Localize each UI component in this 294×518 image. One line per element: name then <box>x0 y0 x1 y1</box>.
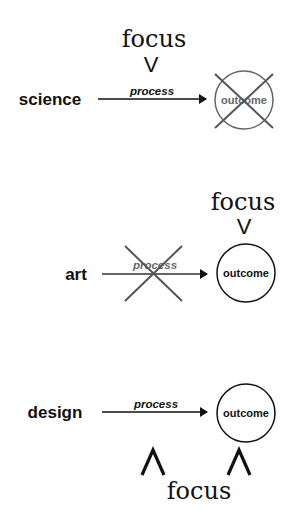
discipline-label-design: design <box>28 403 83 422</box>
row-science: focus V science process outcome <box>19 25 273 129</box>
process-label-art: process <box>132 259 177 271</box>
focus-marker-down-icon: V <box>144 52 159 77</box>
outcome-label-design: outcome <box>223 407 269 419</box>
discipline-label-science: science <box>19 90 81 109</box>
focus-marker-up-icon <box>228 450 250 475</box>
focus-marker-down-icon: V <box>237 214 252 239</box>
process-label-science: process <box>129 85 174 97</box>
focus-label-design: focus <box>167 477 232 505</box>
focus-diagram: focus V science process outcome focus V … <box>0 0 294 518</box>
focus-marker-up-icon <box>142 450 164 475</box>
row-art: focus V art process outcome <box>65 188 275 302</box>
outcome-label-art: outcome <box>223 267 269 279</box>
discipline-label-art: art <box>65 265 87 284</box>
process-label-design: process <box>133 398 178 410</box>
focus-label-science: focus <box>122 25 187 53</box>
focus-label-art: focus <box>211 188 276 216</box>
row-design: design process outcome focus <box>28 384 275 505</box>
